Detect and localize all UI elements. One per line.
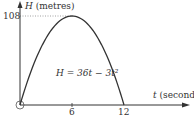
y-axis-var: H: [24, 1, 33, 11]
x-axis-arrow-icon: [182, 103, 190, 108]
y-axis-unit: (metres): [36, 1, 75, 11]
y-tick-label-108: 108: [3, 11, 20, 21]
x-axis-unit: (seconds): [160, 90, 195, 100]
x-axis-label: t (seconds): [153, 90, 194, 100]
y-axis-label: H (metres): [24, 1, 74, 11]
equation-annotation: H = 36t − 3t²: [55, 68, 119, 78]
x-tick-label-12: 12: [118, 107, 129, 117]
y-axis-arrow-icon: [18, 1, 23, 8]
chart: 108 6 12 H (metres) t (seconds) H = 36t …: [0, 0, 194, 117]
x-axis-var: t: [153, 90, 157, 100]
x-tick-label-6: 6: [69, 107, 75, 117]
height-curve: [20, 16, 124, 105]
